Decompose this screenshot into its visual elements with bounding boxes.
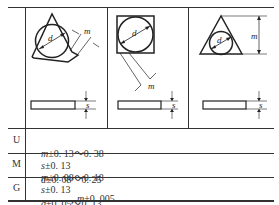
insert-side-view: s [118, 91, 178, 119]
m-label: m [84, 26, 91, 36]
d-label: d [217, 35, 222, 45]
s-label: s [172, 100, 176, 110]
figure-triangle-trimmed: d m s [26, 7, 107, 128]
triangle-insert-shape [32, 14, 78, 62]
d-label: d [132, 28, 137, 38]
s-label: s [259, 100, 263, 110]
row-divider [8, 128, 274, 129]
grade-label-m: M [8, 158, 25, 169]
m-label: m [251, 31, 258, 41]
grade-label-u: U [8, 134, 25, 145]
insert-side-view: s [203, 91, 267, 119]
m-label: m [148, 81, 155, 91]
s-label: s [86, 100, 90, 110]
d-label: d [48, 33, 53, 43]
figure-square: d m s [108, 7, 188, 128]
grade-label-g: G [8, 182, 25, 193]
tolerance-row-g: m±0. 005 s±0. 05 d±0. 13 [26, 182, 279, 205]
figure-triangle: d m s [189, 7, 279, 128]
insert-side-view: s [31, 91, 96, 119]
